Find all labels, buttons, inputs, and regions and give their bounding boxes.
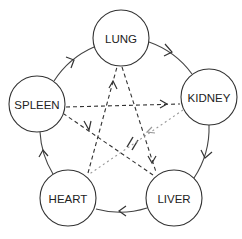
node-lung: LUNG: [93, 10, 149, 66]
node-label-kidney: KIDNEY: [188, 92, 231, 104]
node-heart: HEART: [40, 170, 96, 226]
edge-spleen-to-lung: [54, 47, 94, 81]
arrow-liver-to-spleen-icon: [84, 121, 91, 130]
arrow-liver-to-heart-icon: [119, 206, 126, 216]
edge-lung-to-kidney: [149, 42, 192, 74]
blocked-mark-1: [127, 137, 133, 147]
node-label-spleen: SPLEEN: [14, 99, 59, 111]
arrow-heart-to-lung-icon: [109, 81, 117, 89]
inner-star: [64, 67, 183, 175]
node-spleen: SPLEEN: [9, 76, 65, 132]
node-kidney: KIDNEY: [181, 69, 237, 125]
edge-lung-to-liver: [122, 67, 156, 172]
five-organ-cycle-diagram: LUNG KIDNEY LIVER HEART SPLEEN: [0, 0, 242, 239]
edge-kidney-to-heart: [88, 110, 183, 175]
node-label-liver: LIVER: [157, 193, 190, 205]
node-liver: LIVER: [146, 170, 202, 226]
node-label-lung: LUNG: [105, 33, 137, 45]
node-label-heart: HEART: [49, 193, 88, 205]
edge-heart-to-lung: [88, 67, 117, 173]
arrow-spleen-to-kidney-icon: [160, 100, 167, 108]
arrow-lung-to-liver-icon: [148, 156, 156, 163]
